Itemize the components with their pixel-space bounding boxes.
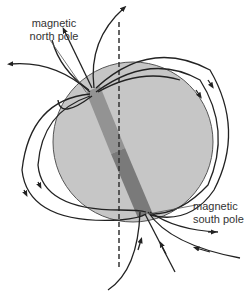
north-pole-label: magnetic north pole [18, 17, 90, 43]
south-pole-label: magnetic south pole [193, 200, 251, 226]
north-pole-label-line2: north pole [18, 30, 90, 43]
north-pole-label-line1: magnetic [18, 17, 90, 30]
south-pole-label-line2: south pole [193, 213, 251, 226]
magnetic-field-diagram [0, 0, 251, 296]
south-pole-label-line1: magnetic [193, 200, 251, 213]
